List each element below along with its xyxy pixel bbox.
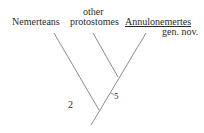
cladogram-branches [0,0,204,133]
node-label-outer: 2 [68,100,73,110]
branch-other-protostomes [93,33,118,77]
node-label-inner: 5 [114,91,119,101]
branch-annulonemertes-stem [91,33,146,125]
branch-nemerteans [54,33,99,110]
